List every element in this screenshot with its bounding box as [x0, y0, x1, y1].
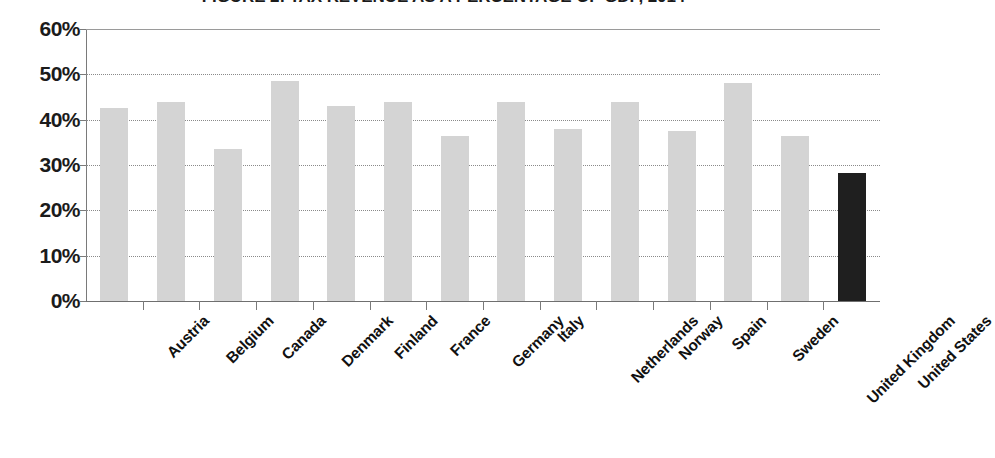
y-axis-tick-label: 30%	[6, 153, 80, 177]
x-axis-tick-label: Spain	[728, 312, 770, 354]
bar-united-kingdom	[781, 136, 809, 301]
bar-norway	[611, 102, 639, 301]
y-axis-tick-label: 60%	[6, 17, 80, 41]
gridline	[86, 120, 880, 121]
x-axis-tick-label: Finland	[391, 312, 442, 363]
y-axis-tick-label: 50%	[6, 62, 80, 86]
x-axis-tick-mark	[426, 301, 427, 310]
bar-denmark	[271, 81, 299, 301]
bar-belgium	[157, 102, 185, 301]
x-axis-tick-mark	[653, 301, 654, 310]
bar-austria	[100, 108, 128, 301]
x-axis-tick-label: Austria	[164, 312, 214, 362]
plot-area	[86, 29, 880, 301]
gridline	[86, 29, 880, 30]
x-axis-tick-label: Germany	[508, 312, 567, 371]
bar-finland	[327, 106, 355, 301]
y-axis-tick-labels: 60%50%40%30%20%10%0%	[0, 29, 80, 301]
x-axis-tick-label: Canada	[278, 312, 329, 363]
x-axis-tick-mark	[596, 301, 597, 310]
bar-sweden	[724, 83, 752, 302]
bar-canada	[214, 149, 242, 301]
x-axis-tick-mark	[313, 301, 314, 310]
x-axis-tick-mark	[483, 301, 484, 310]
bar-france	[384, 102, 412, 301]
bar-united-states	[838, 173, 866, 301]
y-axis-tick-label: 0%	[6, 289, 80, 313]
bar-spain	[668, 131, 696, 301]
bar-italy	[497, 102, 525, 301]
chart-title: FIGURE 2: TAX REVENUE AS A PERCENTAGE OF…	[0, 0, 887, 7]
x-axis-tick-mark	[710, 301, 711, 310]
gridline	[86, 74, 880, 75]
x-axis-tick-mark	[370, 301, 371, 310]
bar-germany	[441, 136, 469, 301]
x-axis-tick-label: France	[446, 312, 494, 360]
bar-netherlands	[554, 129, 582, 301]
y-axis-tick-label: 10%	[6, 244, 80, 268]
x-axis-tick-mark	[823, 301, 824, 310]
x-axis-tick-label: Sweden	[789, 312, 842, 365]
y-axis-tick-label: 40%	[6, 108, 80, 132]
x-axis-tick-mark	[199, 301, 200, 310]
gridline	[86, 256, 880, 257]
x-axis-tick-mark	[143, 301, 144, 310]
x-axis-tick-label: Denmark	[338, 312, 397, 371]
x-axis-tick-mark	[767, 301, 768, 310]
x-axis-tick-mark	[540, 301, 541, 310]
x-axis-tick-label: Belgium	[223, 312, 278, 367]
x-axis-tick-mark	[256, 301, 257, 310]
gridline	[86, 210, 880, 211]
x-axis-tick-labels: AustriaBelgiumCanadaDenmarkFinlandFrance…	[86, 312, 887, 458]
x-axis-tick-marks	[86, 301, 880, 310]
y-axis-tick-label: 20%	[6, 198, 80, 222]
gridline	[86, 165, 880, 166]
